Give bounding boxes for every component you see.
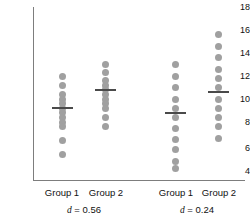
data-point [215, 105, 222, 112]
data-point [59, 137, 66, 144]
plot-area [33, 0, 245, 180]
data-point [59, 82, 66, 89]
group-mean-line [95, 89, 116, 91]
data-point [102, 105, 109, 112]
data-point [172, 136, 179, 143]
data-point [102, 114, 109, 121]
data-point [215, 123, 222, 130]
data-point [59, 73, 66, 80]
data-point [102, 69, 109, 76]
data-point [215, 43, 222, 50]
x-label-panel1-group2: Group 2 [78, 188, 134, 198]
effect-size-label-panel1: d = 0.56 [39, 205, 129, 215]
group-mean-line [208, 91, 229, 93]
data-point [215, 84, 222, 91]
data-point [172, 73, 179, 80]
data-point [172, 125, 179, 132]
data-point [215, 54, 222, 61]
data-point [172, 96, 179, 103]
data-point [102, 61, 109, 68]
effect-size-value: = 0.24 [187, 204, 214, 215]
data-point [172, 146, 179, 153]
data-point [172, 114, 179, 121]
data-point [172, 84, 179, 91]
data-point [215, 75, 222, 82]
data-point [215, 96, 222, 103]
data-point [215, 135, 222, 142]
x-axis-line [33, 180, 245, 181]
effect-size-symbol: d [67, 205, 72, 215]
group-mean-line [52, 107, 73, 109]
data-point [59, 123, 66, 130]
effect-size-symbol: d [180, 205, 185, 215]
data-point [172, 158, 179, 165]
effect-size-value: = 0.56 [74, 204, 101, 215]
data-point [215, 66, 222, 73]
x-label-panel2-group2: Group 2 [191, 188, 247, 198]
data-point [59, 151, 66, 158]
data-point [215, 114, 222, 121]
data-point [215, 31, 222, 38]
data-point [172, 165, 179, 172]
data-point [172, 61, 179, 68]
data-point [172, 105, 179, 112]
group-mean-line [165, 112, 186, 114]
effect-size-label-panel2: d = 0.24 [152, 205, 242, 215]
dot-plot-figure: 18 16 14 12 10 8 6 4 Group 1 Group 2 Gro… [0, 0, 250, 223]
data-point [102, 123, 109, 130]
